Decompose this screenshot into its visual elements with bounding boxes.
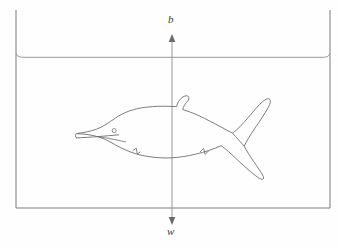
dolphin-silhouette [76, 96, 271, 180]
buoyancy-force-arrow [169, 34, 176, 42]
dolphin-lower-jaw [77, 135, 119, 138]
dolphin-buoyancy-diagram: b w [0, 0, 340, 250]
diagram-canvas [0, 0, 340, 250]
dolphin-eye [112, 129, 116, 133]
weight-force-arrow [169, 217, 176, 225]
dolphin-beak-tip [76, 134, 77, 138]
buoyancy-force-label: b [168, 14, 174, 25]
weight-force-label: w [167, 226, 174, 237]
dolphin-fluke-notch [233, 133, 245, 146]
water-surface-line [16, 54, 330, 58]
dolphin-mouth-line [98, 137, 126, 142]
